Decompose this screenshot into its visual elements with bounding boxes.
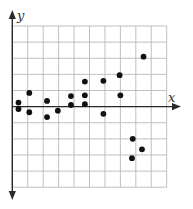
data-point	[129, 155, 135, 161]
data-point	[44, 114, 50, 120]
data-points	[16, 54, 147, 161]
data-point	[68, 93, 74, 99]
data-point	[139, 146, 145, 152]
data-point	[141, 54, 147, 60]
y-axis-down-arrow-icon	[9, 191, 16, 200]
data-point	[82, 79, 88, 85]
data-point	[16, 100, 22, 106]
data-point	[26, 109, 32, 115]
data-point	[82, 92, 88, 98]
data-point	[100, 111, 106, 117]
y-axis-up-arrow-icon	[9, 10, 16, 19]
data-point	[117, 92, 123, 98]
data-point	[82, 101, 88, 107]
data-point	[100, 78, 106, 84]
data-point	[26, 90, 32, 96]
data-point	[68, 102, 74, 108]
data-point	[16, 106, 22, 112]
data-point	[130, 136, 136, 142]
scatter-plot: x y	[0, 0, 193, 209]
x-axis-label: x	[168, 90, 176, 105]
data-point	[55, 108, 61, 114]
data-point	[117, 72, 123, 78]
data-point	[44, 98, 50, 104]
y-axis-label: y	[16, 8, 25, 23]
